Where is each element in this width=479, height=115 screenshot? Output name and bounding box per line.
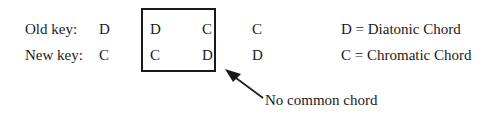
legend-chromatic: C = Chromatic Chord [341,48,472,63]
legend-diatonic: D = Diatonic Chord [341,22,461,37]
no-common-chord-annotation: No common chord [265,93,377,108]
